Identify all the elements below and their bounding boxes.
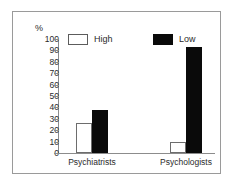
y-axis-tick: 40 xyxy=(13,107,59,108)
bar-group xyxy=(170,39,202,153)
bar-low-psychiatrists xyxy=(92,110,108,153)
y-axis-tick: 70 xyxy=(13,73,59,74)
y-axis-tick: 90 xyxy=(13,50,59,51)
chart-frame: % HighLow 1009080706050403020100 Psychia… xyxy=(12,11,221,174)
y-axis-tick: 80 xyxy=(13,62,59,63)
y-axis-tick: 100 xyxy=(13,39,59,40)
y-axis-tick: 50 xyxy=(13,96,59,97)
y-axis-tick: 60 xyxy=(13,85,59,86)
y-axis-tick: 20 xyxy=(13,130,59,131)
x-axis-category-label: Psychiatrists xyxy=(52,158,132,167)
y-axis-tick-mark xyxy=(54,153,59,154)
bar-high-psychologists xyxy=(170,142,186,153)
bar-low-psychologists xyxy=(186,47,202,153)
y-axis-tick: 0 xyxy=(13,153,59,154)
x-axis-category-label: Psychologists xyxy=(146,158,226,167)
bar-group xyxy=(76,39,108,153)
plot-area xyxy=(58,39,215,153)
x-axis-line xyxy=(58,153,215,154)
y-axis-tick: 10 xyxy=(13,142,59,143)
y-axis-unit-label: % xyxy=(35,24,43,33)
bar-high-psychiatrists xyxy=(76,123,92,153)
y-axis-tick: 30 xyxy=(13,119,59,120)
